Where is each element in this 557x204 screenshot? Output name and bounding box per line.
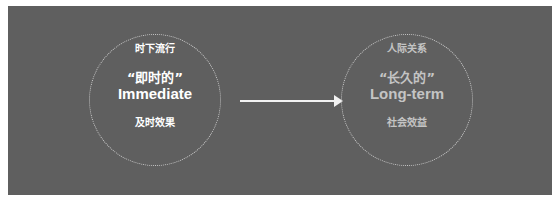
diagram-panel: 时下流行 “即时的” Immediate 及时效果 人际关系 “长久的” Lon… bbox=[8, 6, 552, 195]
long-term-top-label: 人际关系 bbox=[337, 40, 477, 55]
long-term-quote: “长久的” bbox=[337, 67, 477, 86]
immediate-quote: “即时的” bbox=[85, 67, 225, 86]
long-term-english: Long-term bbox=[337, 85, 477, 102]
immediate-top-label: 时下流行 bbox=[85, 40, 225, 55]
arrow-shaft bbox=[240, 100, 336, 102]
long-term-bottom-label: 社会效益 bbox=[337, 114, 477, 129]
immediate-english: Immediate bbox=[85, 85, 225, 102]
immediate-bottom-label: 及时效果 bbox=[85, 114, 225, 129]
